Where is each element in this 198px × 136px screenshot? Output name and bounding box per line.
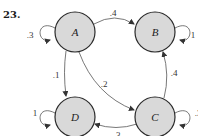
label-c-to-d: .3 xyxy=(114,130,121,136)
edge-a-to-d xyxy=(65,51,67,96)
node-d: D xyxy=(55,97,95,136)
node-a-label: A xyxy=(71,26,79,38)
edge-c-to-b xyxy=(163,52,167,98)
self-loop-a xyxy=(40,26,55,41)
node-c: C xyxy=(135,97,175,136)
label-self-a: .3 xyxy=(27,30,34,40)
self-loop-c xyxy=(175,111,190,126)
label-a-to-d: .1 xyxy=(53,70,60,80)
node-b-label: B xyxy=(152,26,159,38)
label-c-to-b: .4 xyxy=(171,68,178,78)
self-loop-d xyxy=(40,111,55,126)
node-c-label: C xyxy=(151,111,159,123)
label-self-c: .3 xyxy=(195,108,198,118)
edge-a-to-b xyxy=(94,18,134,24)
state-graph: A B C D .4 .3 1 .1 .2 .4 1 .3 .3 xyxy=(0,0,198,136)
markov-chain-diagram: 23. A B C D xyxy=(0,0,198,136)
self-loop-b xyxy=(175,26,190,41)
node-d-label: D xyxy=(70,111,79,123)
node-b: B xyxy=(135,12,175,52)
label-a-to-b: .4 xyxy=(110,8,117,18)
label-self-b: 1 xyxy=(191,30,196,40)
node-a: A xyxy=(55,12,95,52)
problem-number: 23. xyxy=(3,9,20,20)
label-a-to-c: .2 xyxy=(101,79,108,89)
edge-c-to-d xyxy=(95,124,137,128)
label-self-d: 1 xyxy=(33,108,38,118)
